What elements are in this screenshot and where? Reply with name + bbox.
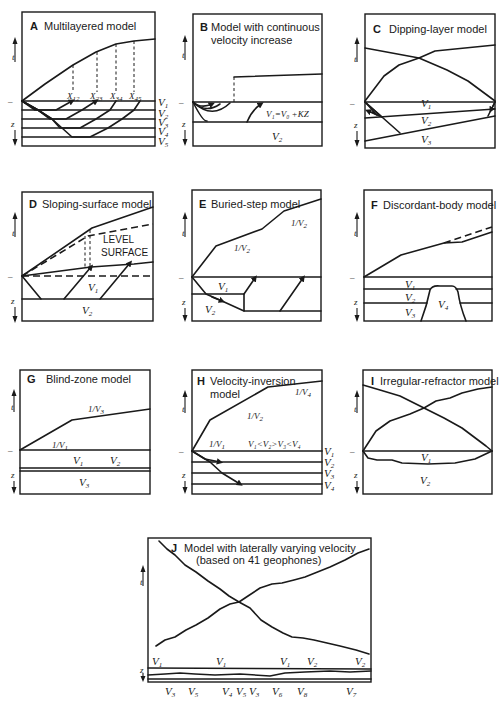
time-axis-arrow-icon: t — [12, 212, 18, 238]
panel-f-discordant-body-model: F Discordant-body model t – z V1 V2 V3 V… — [349, 190, 496, 322]
time-axis-arrow-icon: t — [12, 37, 18, 62]
layer-v3: V3 — [79, 476, 90, 490]
traveltime-curve — [234, 74, 322, 77]
layer-v2: V2 — [421, 114, 432, 128]
surface-tick: – — [349, 98, 355, 108]
velocity-inequality: V₁<V₂>V₃<V₄ — [248, 439, 301, 449]
irregular-interface — [148, 671, 371, 676]
velocity-gradient-equation: V₁=V₀ +KZ — [266, 109, 310, 119]
slope-label-upper: 1/V2 — [291, 218, 308, 230]
layer-v2: V2 — [420, 474, 431, 488]
panel-j-laterally-varying-velocity-model: J Model with laterally varying velocity … — [139, 538, 371, 699]
panel-d-sloping-surface-model: D Sloping-surface model t – z LEVEL SURF… — [7, 192, 153, 323]
bottom-label-v5-b: V5 — [236, 685, 247, 699]
top-label-v2-b: V2 — [355, 655, 366, 669]
time-axis-arrow-icon: t — [11, 389, 17, 412]
panel-b-letter: B — [200, 21, 208, 33]
panel-e-title: Buried-step model — [211, 198, 300, 210]
depth-axis-arrow-icon: z — [10, 470, 17, 494]
depth-axis-arrow-icon: z — [353, 297, 360, 322]
body-v4: V4 — [438, 298, 449, 312]
panel-c-dipping-layer-model: C Dipping-layer model t – z V1 V2 V3 — [349, 14, 495, 148]
traveltime-curve — [192, 199, 321, 277]
top-label-v1-a: V1 — [152, 655, 162, 669]
svg-text:z: z — [181, 119, 186, 129]
bottom-label-v6: V6 — [272, 685, 283, 699]
thin-layer-v2: V2 — [110, 454, 121, 468]
slope-label-v2: 1/V2 — [247, 411, 264, 423]
depth-axis-arrow-icon: z — [353, 120, 360, 147]
panel-e-letter: E — [199, 198, 206, 210]
surface-tick: – — [178, 97, 184, 107]
layer-v2: V2 — [272, 130, 283, 144]
time-axis-arrow-icon: t — [354, 212, 360, 238]
surface-tick: – — [349, 272, 355, 282]
layer-v1: V1 — [421, 451, 431, 465]
time-axis-arrow-icon: t — [182, 35, 188, 60]
panel-h-title-line2: model — [210, 388, 240, 400]
svg-text:z: z — [181, 297, 186, 307]
depth-axis-arrow-icon: z — [181, 297, 188, 322]
panel-i-frame — [363, 370, 492, 494]
bottom-label-v3-a: V3 — [165, 685, 176, 699]
reverse-traveltime — [365, 48, 495, 101]
surface-tick: – — [178, 446, 184, 456]
panel-c-letter: C — [373, 23, 381, 35]
panel-b-title-line1: Model with continuous — [211, 21, 320, 33]
panel-c-title: Dipping-layer model — [389, 23, 487, 35]
panel-e-buried-step-model: E Buried-step model t – z 1/V2 1/V2 V1 V… — [178, 190, 321, 322]
depth-axis-arrow-icon: z — [181, 470, 188, 494]
depth-axis-arrow-icon: z — [10, 119, 18, 146]
layer-v2: V2 — [405, 291, 416, 305]
panel-f-title: Discordant-body model — [383, 199, 496, 211]
traveltime-curve — [22, 39, 155, 101]
traveltime-curve — [20, 409, 150, 450]
slope-label-v3: 1/V3 — [88, 404, 105, 416]
time-axis-arrow-icon: t — [354, 390, 360, 414]
depth-axis-arrow-icon: z — [139, 665, 146, 682]
bottom-label-v3-b: V3 — [249, 685, 260, 699]
bottom-label-v5-a: V5 — [188, 685, 199, 699]
panel-i-irregular-refractor-model: I Irregular-refractor model t – z V1 V2 — [349, 370, 499, 494]
seismic-refraction-models-figure: A Multilayered model t – z X12 X23 X34 X… — [0, 0, 504, 715]
bottom-label-v8: V8 — [297, 685, 308, 699]
time-axis-arrow-icon: t — [354, 37, 360, 64]
level-surface-label-2: SURFACE — [101, 247, 149, 258]
panel-b-title-line2: velocity increase — [211, 34, 292, 46]
level-surface-label-1: LEVEL — [103, 234, 135, 245]
slope-label-lower: 1/V2 — [234, 243, 251, 255]
panel-a-letter: A — [30, 20, 38, 32]
panel-a-multilayered-model: A Multilayered model t – z X12 X23 X34 X… — [7, 12, 169, 149]
panel-g-letter: G — [27, 373, 36, 385]
depth-axis-arrow-icon: z — [10, 296, 18, 323]
svg-text:z: z — [10, 119, 15, 129]
time-axis-arrow-icon: t — [182, 390, 188, 414]
panel-d-title: Sloping-surface model — [42, 198, 151, 210]
svg-text:z: z — [353, 470, 358, 480]
forward-traveltime — [365, 45, 495, 101]
layer-v2: V2 — [205, 303, 216, 317]
layer-v1: V1 — [73, 454, 83, 468]
top-label-v1-b: V1 — [216, 655, 226, 669]
surface-tick: – — [349, 446, 355, 456]
svg-text:z: z — [10, 470, 15, 480]
svg-text:z: z — [10, 296, 15, 306]
surface-tick: – — [7, 96, 13, 106]
panel-d-letter: D — [29, 198, 37, 210]
slope-label-v4: 1/V4 — [295, 387, 312, 399]
panel-h-velocity-inversion-model: H Velocity-inversion model t – z 1/V4 1/… — [178, 370, 335, 494]
panel-j-title-line1: Model with laterally varying velocity — [184, 542, 356, 554]
panel-b-continuous-velocity-model: B Model with continuous velocity increas… — [178, 14, 322, 146]
bottom-label-v4: V4 — [222, 685, 233, 699]
surface-tick: – — [7, 445, 13, 455]
panel-f-letter: F — [371, 199, 378, 211]
layer-v2: V2 — [82, 304, 93, 318]
panel-g-blind-zone-model: G Blind-zone model t – z 1/V3 1/V1 V1 V2… — [7, 370, 150, 494]
panel-i-title: Irregular-refractor model — [380, 375, 499, 387]
panel-a-title: Multilayered model — [44, 20, 136, 32]
bottom-label-v7: V7 — [346, 685, 357, 699]
layer-v1: V1 — [218, 280, 228, 294]
top-label-v1-c: V1 — [280, 655, 290, 669]
svg-text:z: z — [353, 120, 358, 130]
panel-h-letter: H — [197, 375, 205, 387]
